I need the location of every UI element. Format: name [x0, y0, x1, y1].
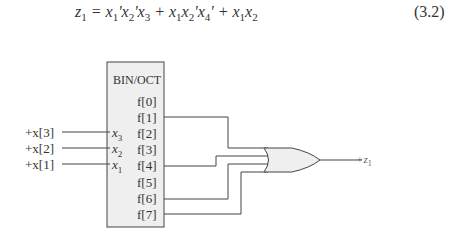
- output-pin: f[3]: [137, 143, 157, 156]
- input-signal: +x[1]: [25, 158, 54, 171]
- output-pin: f[0]: [137, 95, 157, 108]
- pin-label: x1: [112, 158, 122, 177]
- circuit-diagram: [0, 0, 463, 245]
- output-pin: f[2]: [137, 127, 157, 140]
- output-label: +z1: [356, 153, 372, 170]
- input-signal: +x[3]: [25, 126, 54, 139]
- decoder-title: BIN/OCT: [113, 74, 161, 87]
- output-pin: f[5]: [137, 176, 157, 189]
- or-gate: [264, 148, 320, 172]
- input-signal: +x[2]: [25, 142, 54, 155]
- output-pin: f[7]: [137, 208, 157, 221]
- output-pin: f[1]: [137, 111, 157, 124]
- output-pin: f[4]: [137, 159, 157, 172]
- output-pin: f[6]: [137, 192, 157, 205]
